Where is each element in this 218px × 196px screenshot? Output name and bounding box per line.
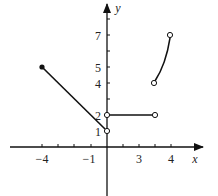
x-tick-label: −4: [36, 152, 49, 166]
y-tick-label: 4: [95, 77, 101, 91]
open-endpoint: [104, 112, 109, 117]
segment-curve: [155, 38, 170, 81]
open-endpoint: [167, 32, 172, 37]
x-axis-label: x: [191, 152, 198, 166]
y-tick-label: 5: [95, 61, 101, 75]
open-endpoint: [104, 128, 109, 133]
y-tick-label: 1: [95, 125, 101, 139]
closed-endpoint: [39, 64, 44, 69]
y-axis-label: y: [114, 1, 121, 15]
x-tick-label: −1: [83, 152, 96, 166]
open-endpoint: [152, 112, 157, 117]
x-tick-label: 4: [168, 152, 174, 166]
function-graph: −4 −1 3 4 x 7 5 4 2 1 y: [0, 0, 218, 196]
y-tick-label: 7: [95, 29, 101, 43]
open-endpoint: [151, 80, 156, 85]
x-tick-label: 3: [136, 152, 142, 166]
